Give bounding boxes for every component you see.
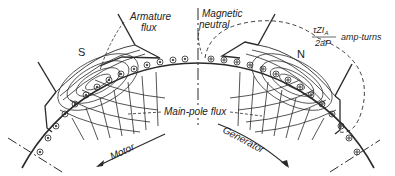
armature-reaction-diagram: Armature flux Magnetic neutral τZIA 2aP … xyxy=(0,0,395,176)
left-pole-axis xyxy=(8,138,62,172)
magnetic-neutral-leader xyxy=(198,28,202,54)
svg-text:τZIA: τZIA xyxy=(313,25,328,36)
north-pole-label: N xyxy=(297,48,305,60)
svg-text:amp-turns: amp-turns xyxy=(341,32,382,42)
armature-flux-label-line2: flux xyxy=(141,22,158,33)
generator-label: Generator xyxy=(221,124,267,155)
motor-label: Motor xyxy=(108,141,136,162)
armature-flux-label-line1: Armature xyxy=(129,11,172,22)
main-pole-flux-label: Main-pole flux xyxy=(164,106,227,117)
magnetic-neutral-label-line1: Magnetic xyxy=(202,8,243,19)
north-pole xyxy=(222,14,352,134)
main-pole-flux-leader-right xyxy=(230,112,262,116)
magnetic-neutral-label-line2: neutral xyxy=(199,19,230,30)
amp-turns-formula: τZIA 2aP amp-turns xyxy=(312,25,382,48)
south-pole-label: S xyxy=(78,46,85,58)
svg-text:2aP: 2aP xyxy=(314,38,331,48)
motor-arrowhead-icon xyxy=(96,160,104,167)
right-pole-axis xyxy=(330,140,380,172)
